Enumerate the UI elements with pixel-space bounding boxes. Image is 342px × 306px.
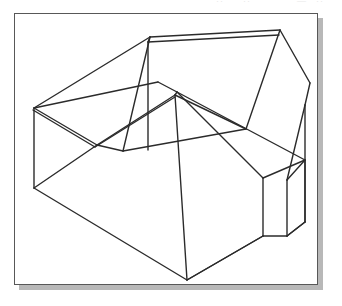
wireframe-edge-1 [34,188,187,280]
wireframe-edge-35 [287,222,305,236]
wireframe-edge-10 [34,108,97,145]
wireframe-edge-9 [34,37,150,108]
wireframe-edge-30 [263,160,305,178]
wireframe-edge-22 [246,30,280,129]
wireframe-edge-6 [305,83,310,105]
wireframe-edge-20 [123,37,150,151]
wireframe-edge-15 [33,110,95,147]
wireframe-edge-24 [175,95,187,280]
wireframe-edge-21 [123,129,246,151]
image-root: ····—·· [0,0,342,306]
wireframe-edge-14 [34,82,158,108]
wireframe-edge-16 [95,97,175,147]
wireframe-edge-32 [97,145,123,151]
wireframe-edge-7 [280,30,310,83]
wireframe-path-group [33,30,310,280]
wireframe-edge-31 [34,145,97,188]
wireframe-edge-28 [177,92,263,178]
wireframe-edge-13 [158,82,177,92]
wireframe-edge-11 [97,95,175,145]
wireframe-drawing [0,0,342,306]
wireframe-edge-36 [287,105,305,180]
wireframe-edge-26 [177,92,305,160]
wireframe-svg [0,0,342,306]
wireframe-edge-25 [187,236,263,280]
